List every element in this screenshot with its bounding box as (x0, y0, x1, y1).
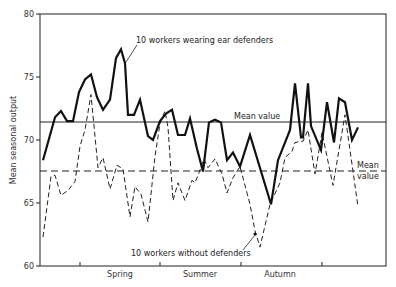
y-tick-60: 60 (24, 262, 34, 271)
solid-mean-annotation: Mean value (234, 112, 280, 121)
dashed-leader-line (243, 235, 255, 250)
season-label-spring: Spring (107, 270, 133, 279)
y-tick-75: 75 (24, 73, 34, 82)
dashed-leader-dot (253, 232, 256, 235)
series-with-ear-defenders (43, 49, 358, 204)
dashed-series-annotation: 10 workers without defenders (131, 249, 251, 258)
dashed-mean-annotation-line2: value (357, 172, 379, 181)
solid-series-annotation: 10 workers wearing ear defenders (136, 36, 273, 45)
seasonal-output-chart: 80 75 70 65 60 Mean seasonal output Spri… (0, 0, 396, 287)
season-label-autumn: Autumn (264, 270, 296, 279)
y-axis (36, 14, 40, 266)
dashed-mean-annotation-line1: Mean (357, 161, 379, 170)
season-label-summer: Summer (183, 270, 218, 279)
x-axis-ticks (80, 262, 322, 266)
y-tick-65: 65 (24, 199, 34, 208)
y-tick-80: 80 (24, 10, 34, 19)
y-axis-label: Mean seasonal output (9, 96, 18, 185)
y-tick-70: 70 (24, 136, 34, 145)
solid-leader-line (126, 45, 137, 62)
